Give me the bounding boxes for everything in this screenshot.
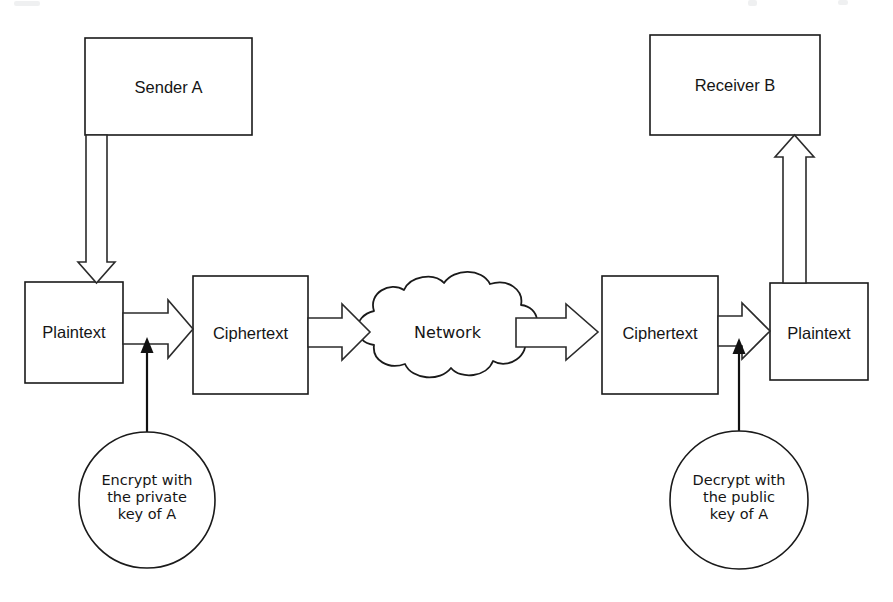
plaintext-right-box[interactable] xyxy=(770,283,868,380)
arrow-sender-to-plaintext xyxy=(78,135,115,283)
ciphertext-right-box[interactable] xyxy=(602,276,718,394)
sender-box[interactable] xyxy=(85,38,252,135)
ciphertext-left-box[interactable] xyxy=(193,276,308,394)
plaintext-left-box[interactable] xyxy=(25,282,123,383)
diagram-canvas: Sender A Receiver B Plaintext Ciphertext… xyxy=(0,0,893,602)
decrypt-note-circle[interactable] xyxy=(670,431,808,569)
network-cloud[interactable] xyxy=(358,272,537,377)
arrow-plaintext-to-receiver xyxy=(775,135,814,283)
diagram-graphics xyxy=(0,0,893,602)
receiver-box[interactable] xyxy=(650,35,820,135)
arrow-ciphertext-to-network xyxy=(308,304,370,360)
arrow-plaintext-to-ciphertext xyxy=(123,300,193,358)
encrypt-note-circle[interactable] xyxy=(79,432,215,568)
